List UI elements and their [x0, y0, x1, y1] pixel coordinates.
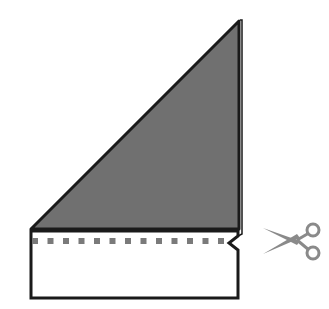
scissors-icon	[263, 224, 319, 259]
folded-triangle	[31, 21, 239, 229]
folding-diagram	[0, 0, 329, 309]
